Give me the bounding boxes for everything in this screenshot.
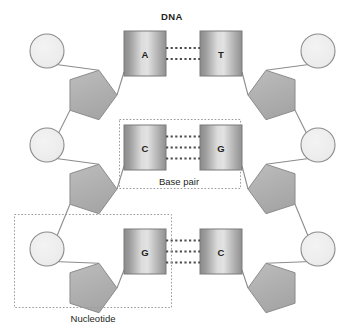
base-letter-c: C	[218, 246, 225, 257]
phosphate	[301, 232, 335, 266]
phosphate	[30, 232, 64, 266]
phosphate	[30, 34, 64, 68]
backbone-segment	[242, 72, 248, 95]
annotation-label-base-pair: Base pair	[159, 176, 199, 187]
deoxyribose-sugar	[70, 164, 117, 213]
backbone-segment	[242, 166, 248, 189]
backbone-segment	[242, 270, 248, 288]
base-letter-g: G	[141, 246, 148, 257]
base-letter-c: C	[142, 142, 149, 153]
diagram-canvas	[0, 0, 345, 333]
dna-diagram: DNA ATCGGC Base pairNucleotide	[0, 0, 345, 333]
deoxyribose-sugar	[70, 263, 117, 312]
backbone-segment	[117, 166, 124, 189]
deoxyribose-sugar	[248, 70, 295, 119]
phosphate	[301, 34, 335, 68]
backbone-segment	[117, 72, 124, 95]
deoxyribose-sugar	[248, 164, 295, 213]
nucleotide-shapes	[30, 31, 335, 313]
base-letter-a: A	[142, 48, 149, 59]
deoxyribose-sugar	[248, 263, 295, 312]
page-title: DNA	[161, 11, 183, 22]
phosphate	[30, 128, 64, 162]
hydrogen-bonds-layer	[166, 48, 200, 263]
annotation-label-nucleotide: Nucleotide	[71, 313, 116, 324]
base-letter-g: G	[217, 142, 224, 153]
backbone-segment	[117, 270, 124, 288]
phosphate	[301, 128, 335, 162]
base-letter-t: T	[218, 48, 224, 59]
deoxyribose-sugar	[70, 70, 117, 119]
